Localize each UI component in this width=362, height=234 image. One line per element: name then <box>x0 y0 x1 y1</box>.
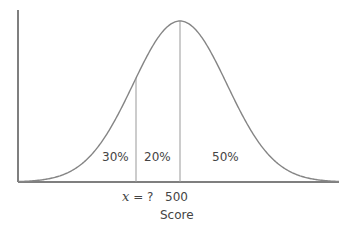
x-equals-question: = ? <box>129 190 153 204</box>
region-label-middle: 20% <box>144 150 171 164</box>
normal-curve-diagram: 30% 20% 50% x = ? 500 Score <box>0 0 362 234</box>
bell-curve <box>18 21 339 182</box>
mean-value-label: 500 <box>165 190 188 204</box>
axis-title: Score <box>160 208 194 222</box>
region-label-right: 50% <box>212 150 239 164</box>
x-unknown-label: x = ? <box>122 189 153 204</box>
region-label-left: 30% <box>102 150 129 164</box>
